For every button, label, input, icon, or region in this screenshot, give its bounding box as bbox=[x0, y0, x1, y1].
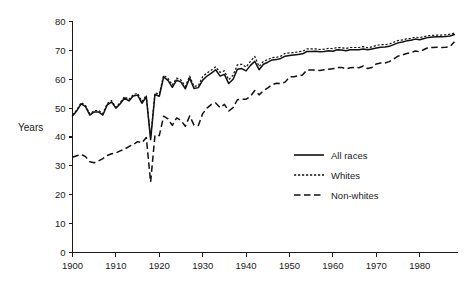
legend-item-label: Non-whites bbox=[331, 190, 379, 201]
legend-item-label: Whites bbox=[331, 170, 360, 181]
y-tick-label: 80 bbox=[55, 16, 66, 27]
series-group bbox=[73, 33, 455, 182]
series-line-whites bbox=[73, 33, 455, 138]
x-tick-label: 1970 bbox=[366, 260, 387, 271]
x-tick-label: 1960 bbox=[322, 260, 343, 271]
legend-item-label: All races bbox=[331, 150, 368, 161]
life-expectancy-chart: 01020304050607080 1900191019201930194019… bbox=[0, 0, 474, 291]
y-tick-label: 20 bbox=[55, 189, 66, 200]
y-tick-label: 60 bbox=[55, 74, 66, 85]
legend-item[interactable]: All races bbox=[294, 150, 368, 161]
y-tick-group: 01020304050607080 bbox=[55, 16, 73, 258]
series-line-all-races bbox=[73, 34, 455, 139]
x-tick-group: 190019101920193019401950196019701980 bbox=[62, 253, 430, 271]
y-tick-label: 70 bbox=[55, 45, 66, 56]
y-tick-label: 30 bbox=[55, 160, 66, 171]
x-tick-label: 1980 bbox=[409, 260, 430, 271]
chart-canvas: 01020304050607080 1900191019201930194019… bbox=[0, 0, 474, 291]
y-axis-label: Years bbox=[18, 122, 43, 133]
legend-item[interactable]: Whites bbox=[294, 170, 360, 181]
x-tick-label: 1910 bbox=[105, 260, 126, 271]
y-tick-label: 40 bbox=[55, 131, 66, 142]
x-tick-label: 1920 bbox=[149, 260, 170, 271]
x-tick-label: 1900 bbox=[62, 260, 83, 271]
legend-item[interactable]: Non-whites bbox=[294, 190, 379, 201]
y-tick-label: 50 bbox=[55, 103, 66, 114]
chart-legend: All racesWhitesNon-whites bbox=[294, 150, 379, 201]
x-tick-label: 1950 bbox=[279, 260, 300, 271]
y-tick-label: 10 bbox=[55, 218, 66, 229]
series-line-non-whites bbox=[73, 42, 455, 182]
y-tick-label: 0 bbox=[60, 247, 65, 258]
x-tick-label: 1930 bbox=[192, 260, 213, 271]
x-tick-label: 1940 bbox=[236, 260, 257, 271]
